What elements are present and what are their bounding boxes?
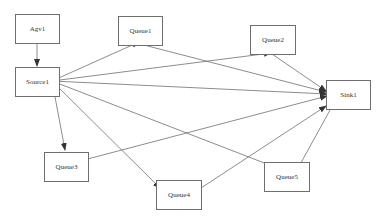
- edge-queue2-to-sink1: [272, 54, 326, 91]
- node-label: Agv1: [30, 25, 46, 33]
- node-label: Queue1: [130, 27, 152, 35]
- node-agv1[interactable]: Agv1: [15, 14, 60, 44]
- node-label: Sink1: [340, 91, 356, 99]
- node-source1[interactable]: Source1: [15, 67, 60, 97]
- node-queue3[interactable]: Queue3: [44, 152, 89, 182]
- edge-source1-to-sink1: [52, 81, 327, 94]
- edge-source1-to-queue2: [52, 53, 271, 81]
- node-label: Queue2: [262, 36, 284, 44]
- node-label: Queue4: [168, 191, 190, 199]
- node-sink1[interactable]: Sink1: [326, 80, 371, 110]
- edge-queue5-to-sink1: [297, 101, 335, 170]
- flow-diagram: Agv1 Source1 Queue1 Queue2 Sink1 Queue3 …: [0, 0, 383, 220]
- node-queue2[interactable]: Queue2: [250, 25, 296, 55]
- node-queue4[interactable]: Queue4: [156, 180, 202, 210]
- node-label: Queue5: [276, 173, 298, 181]
- edge-queue1-to-sink1: [140, 44, 326, 92]
- node-label: Queue3: [56, 163, 78, 171]
- node-queue1[interactable]: Queue1: [118, 16, 163, 46]
- node-queue5[interactable]: Queue5: [264, 162, 310, 192]
- node-label: Source1: [26, 78, 49, 86]
